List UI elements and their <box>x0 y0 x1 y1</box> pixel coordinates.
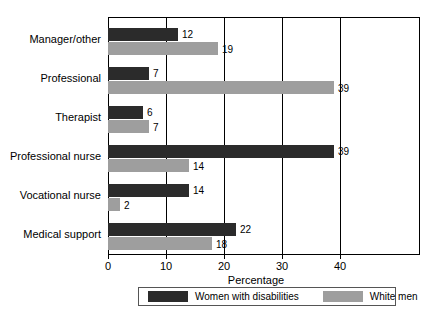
legend-swatch-gray-icon <box>323 291 363 302</box>
bar-value-women-professional-nurse: 39 <box>338 147 349 157</box>
bar-value-women-medical-support: 22 <box>240 225 251 235</box>
bar-women-professional-nurse <box>108 145 334 158</box>
bar-whitemen-manager-other <box>108 42 218 55</box>
category-label: Vocational nurse <box>0 190 101 201</box>
bar-value-whitemen-professional: 39 <box>338 84 349 94</box>
legend-entry-women-with-disabilities: Women with disabilities <box>148 291 299 302</box>
tick-label-0: 0 <box>88 261 128 272</box>
legend-entry-white-men: White men <box>323 291 418 302</box>
tick-label-10: 10 <box>146 261 186 272</box>
bar-whitemen-medical-support <box>108 237 212 250</box>
legend-label-white-men: White men <box>370 292 418 302</box>
tick-mark-0 <box>108 255 109 259</box>
bar-value-women-manager-other: 12 <box>182 30 193 40</box>
bar-women-therapist <box>108 106 143 119</box>
category-label: Professional nurse <box>0 151 101 162</box>
bar-women-vocational-nurse <box>108 184 189 197</box>
bar-value-whitemen-vocational-nurse: 2 <box>124 201 130 211</box>
category-label: Manager/other <box>0 34 101 45</box>
chart-legend: Women with disabilities White men <box>138 287 396 306</box>
bar-women-manager-other <box>108 28 178 41</box>
bar-value-whitemen-therapist: 7 <box>153 123 159 133</box>
bar-value-women-vocational-nurse: 14 <box>193 186 204 196</box>
bar-value-women-therapist: 6 <box>147 108 153 118</box>
bar-whitemen-therapist <box>108 120 149 133</box>
tick-label-20: 20 <box>204 261 244 272</box>
tick-mark-40 <box>340 255 341 259</box>
bar-whitemen-vocational-nurse <box>108 198 120 211</box>
bar-value-whitemen-professional-nurse: 14 <box>193 162 204 172</box>
bar-value-whitemen-medical-support: 18 <box>216 240 227 250</box>
category-label: Therapist <box>0 112 101 123</box>
tick-mark-10 <box>166 255 167 259</box>
bar-women-medical-support <box>108 223 236 236</box>
bar-women-professional <box>108 67 149 80</box>
x-axis-title: Percentage <box>0 275 436 286</box>
tick-label-40: 40 <box>320 261 360 272</box>
tick-label-30: 30 <box>262 261 302 272</box>
category-label: Professional <box>0 73 101 84</box>
bar-value-whitemen-manager-other: 19 <box>222 45 233 55</box>
bar-whitemen-professional-nurse <box>108 159 189 172</box>
tick-mark-20 <box>224 255 225 259</box>
x-axis-title-text: Percentage <box>228 274 284 286</box>
category-label: Medical support <box>0 229 101 240</box>
bar-value-women-professional: 7 <box>153 69 159 79</box>
bar-chart: Manager/other Professional Therapist Pro… <box>0 0 436 320</box>
gridline-40 <box>340 18 341 254</box>
tick-mark-30 <box>282 255 283 259</box>
gridline-30 <box>282 18 283 254</box>
legend-swatch-dark-icon <box>148 291 188 302</box>
bar-whitemen-professional <box>108 81 334 94</box>
legend-label-women-with-disabilities: Women with disabilities <box>195 292 299 302</box>
